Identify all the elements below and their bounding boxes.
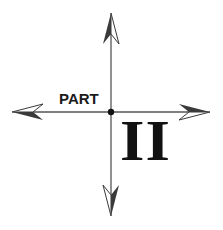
center-dot xyxy=(108,109,114,115)
part-divider-page: PART II xyxy=(0,0,223,230)
compass-arrows-graphic xyxy=(0,0,223,230)
part-number-roman: II xyxy=(120,115,171,167)
part-label: PART xyxy=(59,90,99,108)
